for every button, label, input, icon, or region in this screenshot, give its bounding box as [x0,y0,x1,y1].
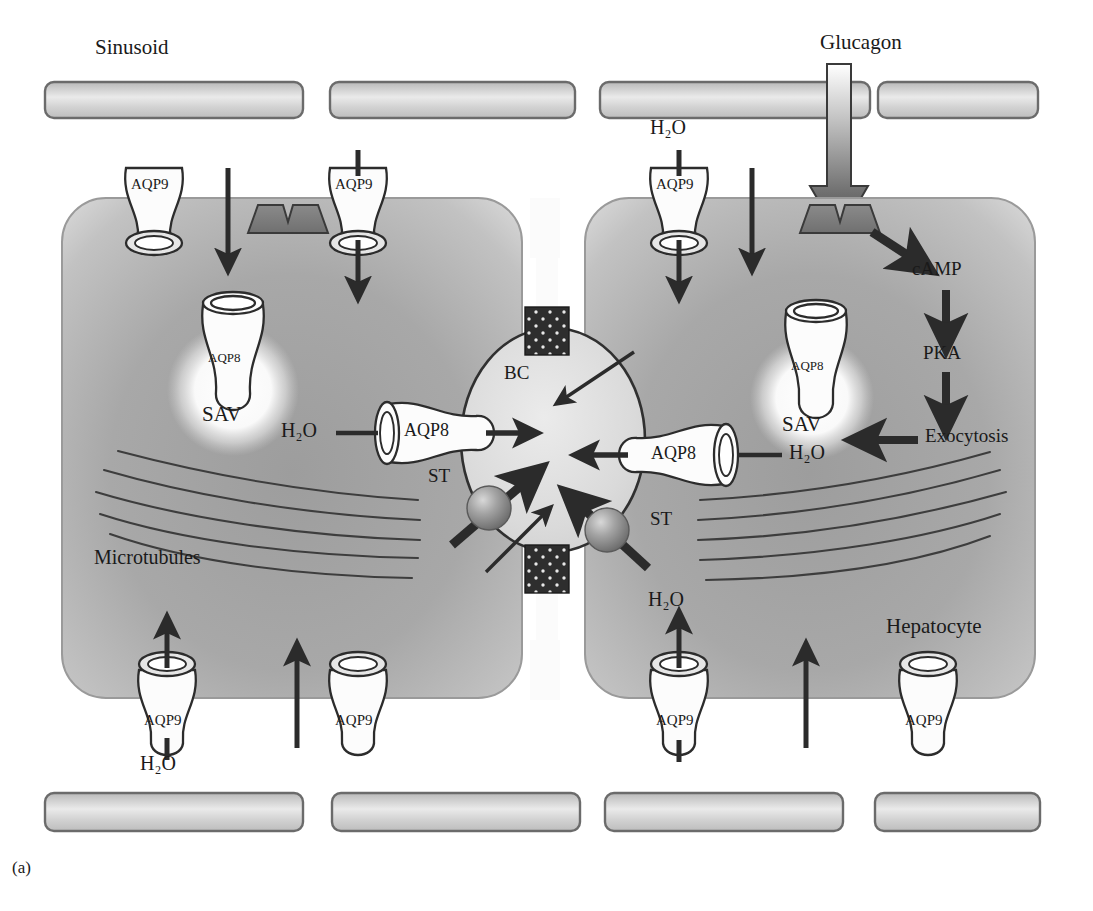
aqp9-bot-right-1-label: AQP9 [656,712,694,729]
figure-canvas: Sinusoid Glucagon Hepatocyte Microtubule… [0,0,1093,911]
sav-right-label: SAV [782,412,821,437]
sinusoid-label: Sinusoid [95,35,169,60]
bile-canaliculus-label: BC [504,362,529,384]
h2o-label-apical-left: H₂O [281,419,317,442]
aqp8-apical-left-label: AQP8 [404,420,449,441]
sinusoid-bars-top [45,82,1038,118]
st-right-label: ST [650,508,672,530]
aqp9-bot-right-2-label: AQP9 [905,712,943,729]
aqp9-bot-left-1-label: AQP9 [144,712,182,729]
aqp9-bot-right-2 [899,652,957,755]
camp-label: cAMP [912,258,962,280]
aqp9-bot-left-2 [329,652,387,755]
sav-right-aqp8-label: AQP8 [791,358,824,374]
sav-left-aqp8-label: AQP8 [208,350,241,366]
aqp9-top-right-1-label: AQP9 [656,176,694,193]
h2o-label-bottom-left: H₂O [140,752,176,775]
aqp9-bot-left-2-label: AQP9 [335,712,373,729]
aqp9-top-left-2-label: AQP9 [335,176,373,193]
tight-junction-top [525,307,569,355]
glucagon-label: Glucagon [820,30,902,55]
pka-label: PKA [923,342,961,364]
sav-left-label: SAV [202,402,241,427]
sinusoid-bars-bottom [45,793,1040,831]
exocytosis-label: Exocytosis [925,425,1008,447]
tight-junction-bottom [525,545,569,593]
h2o-label-apical-right: H₂O [789,441,825,464]
aqp8-apical-right-label: AQP8 [651,443,696,464]
figure-caption: (a) [12,858,31,878]
microtubules-label: Microtubules [94,546,201,569]
h2o-label-top-right: H₂O [650,116,686,139]
h2o-label-bottom-right: H₂O [648,588,684,611]
hepatocyte-label: Hepatocyte [886,614,982,639]
st-left-label: ST [428,465,450,487]
aqp9-top-left-1-label: AQP9 [131,176,169,193]
